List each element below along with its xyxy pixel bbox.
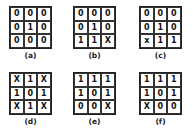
grid-cell: 1	[140, 87, 154, 101]
grid-cell: 0	[24, 7, 38, 21]
grid-cell: 0	[74, 21, 88, 35]
panel-e: 11110100X(e)	[73, 72, 117, 126]
grid-cell: X	[140, 100, 154, 114]
grid-3x3: X1X101X1X	[9, 72, 52, 115]
grid-cell: 0	[24, 34, 38, 48]
grid-cell: x	[140, 34, 154, 48]
grid-cell: 1	[154, 34, 168, 48]
grid-cell: 0	[154, 7, 168, 21]
grid-cell: 1	[88, 34, 102, 48]
grid-cell: 0	[37, 7, 51, 21]
grid-cell: 0	[37, 21, 51, 35]
grid-cell: 0	[10, 21, 24, 35]
grid-cell: 0	[167, 7, 181, 21]
grid-cell: 0	[101, 21, 115, 35]
grid-cell: 0	[154, 87, 168, 101]
grid-cell: 1	[74, 73, 88, 87]
panel-label: (a)	[9, 51, 52, 60]
grid-cell: 1	[140, 73, 154, 87]
grid-cell: X	[37, 73, 51, 87]
grid-cell: 1	[167, 87, 181, 101]
grid-cell: 0	[154, 100, 168, 114]
grid-cell: 0	[88, 7, 102, 21]
panel-a: 000010000(a)	[9, 6, 53, 60]
panel-label: (b)	[73, 51, 116, 60]
panel-f: 111101X00(f)	[139, 72, 183, 126]
grid-cell: 0	[167, 100, 181, 114]
grid-cell: 1	[74, 34, 88, 48]
grid-cell: 1	[88, 73, 102, 87]
panel-label: (c)	[139, 51, 182, 60]
grid-cell: 1	[167, 73, 181, 87]
panel-label: (f)	[139, 117, 182, 126]
panel-d: X1X101X1X(d)	[9, 72, 53, 126]
grid-cell: X	[10, 73, 24, 87]
grid-cell: 0	[140, 7, 154, 21]
grid-cell: 0	[74, 100, 88, 114]
grid-cell: 0	[140, 21, 154, 35]
grid-cell: 0	[101, 7, 115, 21]
grid-cell: 1	[101, 87, 115, 101]
grid-cell: 1	[154, 73, 168, 87]
panel-b: 00001011X(b)	[73, 6, 117, 60]
grid-cell: 1	[154, 21, 168, 35]
grid-cell: 1	[167, 34, 181, 48]
grid-cell: 0	[10, 34, 24, 48]
grid-cell: 1	[74, 87, 88, 101]
grid-3x3: 000010000	[9, 6, 52, 49]
grid-cell: 1	[101, 73, 115, 87]
grid-cell: X	[10, 100, 24, 114]
grid-3x3: 11110100X	[73, 72, 116, 115]
grid-cell: 0	[74, 7, 88, 21]
grid-cell: 1	[37, 87, 51, 101]
grid-cell: 1	[24, 100, 38, 114]
grid-3x3: 000010x11	[139, 6, 182, 49]
panel-label: (d)	[9, 117, 52, 126]
grid-cell: 1	[88, 21, 102, 35]
panel-c: 000010x11(c)	[139, 6, 183, 60]
grid-cell: 0	[88, 100, 102, 114]
grid-3x3: 111101X00	[139, 72, 182, 115]
grid-cell: X	[101, 34, 115, 48]
grid-cell: 0	[167, 21, 181, 35]
grid-3x3: 00001011X	[73, 6, 116, 49]
grid-cell: X	[37, 100, 51, 114]
panel-label: (e)	[73, 117, 116, 126]
grid-cell: 0	[88, 87, 102, 101]
grid-cell: 0	[10, 7, 24, 21]
grid-cell: 0	[37, 34, 51, 48]
grid-cell: 1	[24, 73, 38, 87]
grid-cell: 1	[24, 21, 38, 35]
grid-cell: 0	[24, 87, 38, 101]
grid-cell: 1	[10, 87, 24, 101]
grid-cell: X	[101, 100, 115, 114]
